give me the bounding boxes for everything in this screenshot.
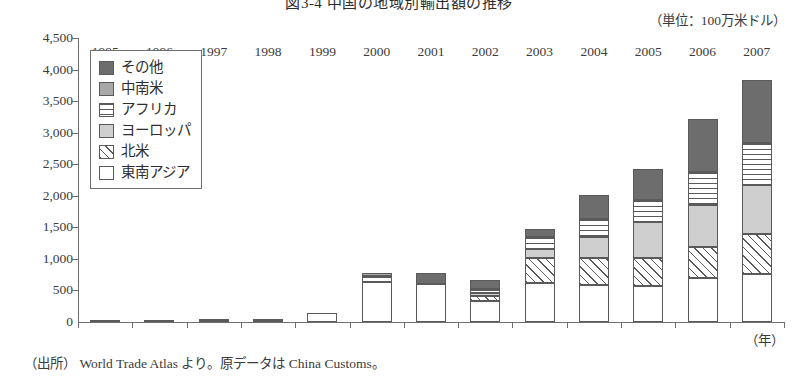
bar-segment-2002-africa: [470, 289, 500, 293]
bar-1997: [199, 319, 229, 322]
bar-1999: [307, 313, 337, 322]
bar-segment-2003-africa: [525, 237, 555, 250]
y-axis-tick-mark: [72, 259, 78, 260]
y-axis-tick-mark: [72, 196, 78, 197]
bar-2005: [633, 169, 663, 322]
bar-segment-2002-seasia: [470, 301, 500, 322]
x-axis-tick-label: 1999: [309, 45, 336, 59]
bar-segment-2005-other: [633, 169, 663, 201]
x-axis-tick-label: 2004: [580, 45, 607, 59]
x-axis-tick-mark: [404, 322, 405, 328]
y-axis-tick-mark: [72, 133, 78, 134]
legend-swatch-europe-icon: [99, 124, 114, 138]
y-axis-tick-label: 2,500: [43, 157, 73, 171]
bar-segment-2006-europe: [688, 205, 718, 247]
chart-legend: その他中南米アフリカヨーロッパ北米東南アジア: [90, 50, 202, 189]
bar-segment-2003-namerica: [525, 258, 555, 283]
legend-label-namerica: 北米: [121, 144, 149, 159]
bar-1995: [90, 321, 120, 322]
y-axis-tick-label: 0: [66, 315, 73, 329]
bar-2003: [525, 229, 555, 322]
legend-item-other: その他: [99, 57, 191, 78]
bar-segment-2006-seasia: [688, 278, 718, 322]
legend-item-africa: アフリカ: [99, 99, 191, 120]
bar-segment-2001-other: [416, 273, 446, 283]
legend-swatch-seasia-icon: [99, 166, 114, 180]
x-axis-tick-mark: [621, 322, 622, 328]
x-axis-tick-mark: [241, 322, 242, 328]
bar-1998: [253, 319, 283, 322]
bar-segment-1998-namerica: [253, 319, 283, 322]
bar-segment-2007-africa: [742, 143, 772, 185]
x-axis-tick-label: 2007: [743, 45, 770, 59]
bar-segment-2000-latam: [362, 273, 392, 276]
y-axis-tick-mark: [72, 38, 78, 39]
y-axis-tick-mark: [72, 101, 78, 102]
x-axis-tick-label: 2003: [526, 45, 553, 59]
bar-segment-1995-seasia: [90, 320, 120, 322]
bar-segment-2002-other: [470, 280, 500, 288]
x-axis-tick-label: 2000: [363, 45, 390, 59]
legend-label-africa: アフリカ: [121, 102, 177, 117]
source-note: （出所） World Trade Atlas より。原データは China Cu…: [24, 352, 385, 372]
y-axis-tick-mark: [72, 70, 78, 71]
bar-segment-2003-other: [525, 229, 555, 237]
bar-segment-2000-seasia: [362, 282, 392, 322]
bar-2001: [416, 273, 446, 322]
legend-swatch-latam-icon: [99, 82, 114, 96]
x-axis-tick-label: 2006: [689, 45, 716, 59]
bar-segment-2007-namerica: [742, 234, 772, 274]
bar-segment-2007-seasia: [742, 274, 772, 322]
bar-1996: [144, 320, 174, 322]
y-axis-tick-label: 3,000: [43, 126, 73, 140]
x-axis-unit-label: （年）: [745, 329, 784, 349]
legend-item-latam: 中南米: [99, 78, 191, 99]
bar-segment-2004-namerica: [579, 258, 609, 286]
bar-segment-1999-seasia: [307, 313, 337, 322]
x-axis-tick-label: 2001: [418, 45, 445, 59]
unit-note: （単位：100万米ドル）: [649, 9, 786, 29]
bar-segment-2000-africa: [362, 276, 392, 282]
y-axis-tick-label: 2,000: [43, 189, 73, 203]
bar-2006: [688, 119, 718, 322]
legend-swatch-africa-icon: [99, 103, 114, 117]
legend-item-namerica: 北米: [99, 141, 191, 162]
bar-segment-2004-europe: [579, 237, 609, 257]
y-axis-tick-label: 4,000: [43, 63, 73, 77]
y-axis-tick-label: 4,500: [43, 31, 73, 45]
bar-segment-2005-africa: [633, 200, 663, 222]
x-axis-tick-mark: [512, 322, 513, 328]
x-axis-tick-label: 1997: [200, 45, 227, 59]
bar-segment-2007-europe: [742, 185, 772, 234]
bar-segment-2005-namerica: [633, 258, 663, 286]
bar-2002: [470, 280, 500, 322]
bar-segment-2006-africa: [688, 172, 718, 205]
x-axis-tick-mark: [187, 322, 188, 328]
x-axis-tick-mark: [132, 322, 133, 328]
legend-label-latam: 中南米: [121, 81, 163, 96]
bar-segment-2001-seasia: [416, 284, 446, 322]
y-axis-tick-mark: [72, 227, 78, 228]
bar-segment-2007-other: [742, 80, 772, 143]
bar-segment-2003-seasia: [525, 283, 555, 322]
legend-item-seasia: 東南アジア: [99, 162, 191, 183]
y-axis-tick-mark: [72, 164, 78, 165]
legend-swatch-other-icon: [99, 61, 114, 75]
bar-segment-1996-seasia: [144, 320, 174, 322]
x-axis-tick-mark: [784, 322, 785, 328]
y-axis-tick-label: 500: [53, 284, 73, 298]
x-axis-tick-label: 1998: [255, 45, 282, 59]
x-axis-tick-mark: [350, 322, 351, 328]
bar-segment-2004-africa: [579, 219, 609, 237]
legend-label-seasia: 東南アジア: [121, 165, 190, 180]
bar-segment-2003-europe: [525, 249, 555, 258]
x-axis-tick-mark: [567, 322, 568, 328]
legend-swatch-namerica-icon: [99, 145, 114, 159]
bar-2004: [579, 195, 609, 322]
legend-item-europe: ヨーロッパ: [99, 120, 191, 141]
bar-segment-2006-namerica: [688, 247, 718, 279]
bar-segment-2004-seasia: [579, 285, 609, 322]
y-axis-tick-label: 1,500: [43, 221, 73, 235]
y-axis-tick-mark: [72, 290, 78, 291]
x-axis-tick-mark: [730, 322, 731, 328]
